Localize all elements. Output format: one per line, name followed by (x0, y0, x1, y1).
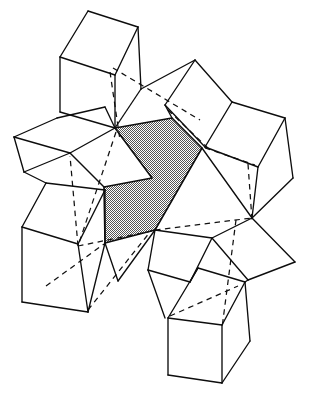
bottom-right-cube-left (168, 318, 222, 383)
figure-container (0, 0, 311, 395)
geometric-figure-svg (0, 0, 311, 395)
